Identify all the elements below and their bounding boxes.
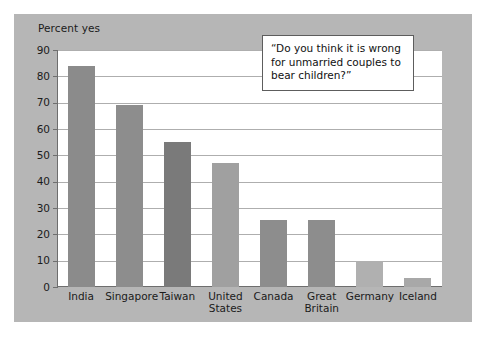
y-tick-mark-60 <box>53 129 57 130</box>
y-tick-label-60: 60 <box>37 123 50 135</box>
y-axis-line <box>57 50 58 288</box>
bar-iceland <box>404 278 431 287</box>
y-tick-mark-50 <box>53 155 57 156</box>
y-tick-label-80: 80 <box>37 70 50 82</box>
chart-figure: Percent yes 0102030405060708090 IndiaSin… <box>0 0 487 343</box>
y-tick-mark-80 <box>53 76 57 77</box>
y-tick-mark-70 <box>53 103 57 104</box>
y-tick-mark-10 <box>53 261 57 262</box>
bar-india <box>68 66 95 287</box>
bar-great-britain <box>308 220 335 287</box>
y-tick-label-20: 20 <box>37 228 50 240</box>
x-tick-label-great-britain: Great Britain <box>298 291 346 314</box>
x-tick-label-canada: Canada <box>250 291 298 303</box>
y-tick-label-70: 70 <box>37 96 50 108</box>
gridline-70 <box>57 103 442 104</box>
bar-united-states <box>212 163 239 287</box>
bar-canada <box>260 220 287 287</box>
y-tick-label-40: 40 <box>37 175 50 187</box>
y-tick-mark-40 <box>53 182 57 183</box>
x-tick-label-singapore: Singapore <box>105 291 153 303</box>
y-tick-label-10: 10 <box>37 254 50 266</box>
y-tick-label-30: 30 <box>37 202 50 214</box>
survey-question-callout: “Do you think it is wrong for unmarried … <box>262 35 414 91</box>
y-tick-mark-90 <box>53 50 57 51</box>
y-tick-label-0: 0 <box>43 281 50 293</box>
x-tick-label-iceland: Iceland <box>394 291 442 303</box>
x-tick-label-united-states: United States <box>201 291 249 314</box>
y-tick-label-50: 50 <box>37 149 50 161</box>
x-tick-label-india: India <box>57 291 105 303</box>
y-tick-mark-30 <box>53 208 57 209</box>
y-tick-mark-20 <box>53 234 57 235</box>
bar-singapore <box>116 105 143 287</box>
y-axis-tick-labels: 0102030405060708090 <box>0 0 50 343</box>
bar-germany <box>356 261 383 287</box>
y-tick-label-90: 90 <box>37 44 50 56</box>
y-tick-mark-0 <box>53 287 57 288</box>
x-tick-label-germany: Germany <box>346 291 394 303</box>
bar-taiwan <box>164 142 191 287</box>
x-tick-label-taiwan: Taiwan <box>153 291 201 303</box>
